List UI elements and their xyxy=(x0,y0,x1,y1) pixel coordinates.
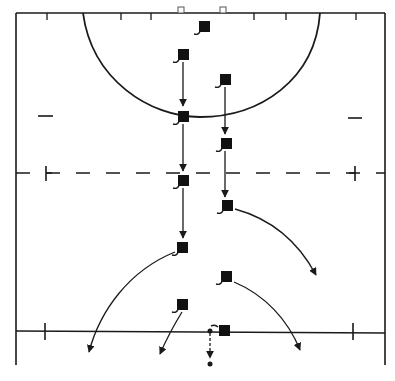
player-icon xyxy=(215,74,231,87)
player-icon xyxy=(216,271,232,284)
player-icon xyxy=(172,242,188,255)
midfield-line xyxy=(16,331,385,333)
lacrosse-play-diagram xyxy=(0,0,395,381)
ball-path xyxy=(208,329,213,367)
players xyxy=(172,21,233,336)
player-icon xyxy=(172,299,188,312)
ball-end-icon xyxy=(208,362,213,367)
restraining-tick-left xyxy=(46,166,52,181)
player-icon xyxy=(211,325,230,336)
movement-arrows xyxy=(89,62,316,354)
goal-post-left xyxy=(178,7,184,13)
top-tick-marks xyxy=(47,13,356,20)
player-icon xyxy=(173,111,189,124)
player-icon xyxy=(194,21,210,34)
player-icon xyxy=(173,49,189,62)
player-icon xyxy=(217,200,233,213)
ball-start-icon xyxy=(208,329,213,334)
arrow-p10-cut-left xyxy=(160,312,182,354)
arrow-p8-cut-left xyxy=(89,252,175,352)
player-icon xyxy=(216,138,232,151)
player-icon xyxy=(173,175,189,188)
goal-post-right xyxy=(220,7,226,13)
field-lines xyxy=(16,13,385,365)
arrow-p7-cut-right xyxy=(235,209,316,275)
arrow-p9-cut-right xyxy=(234,282,300,350)
restraining-tick-right xyxy=(349,166,355,181)
